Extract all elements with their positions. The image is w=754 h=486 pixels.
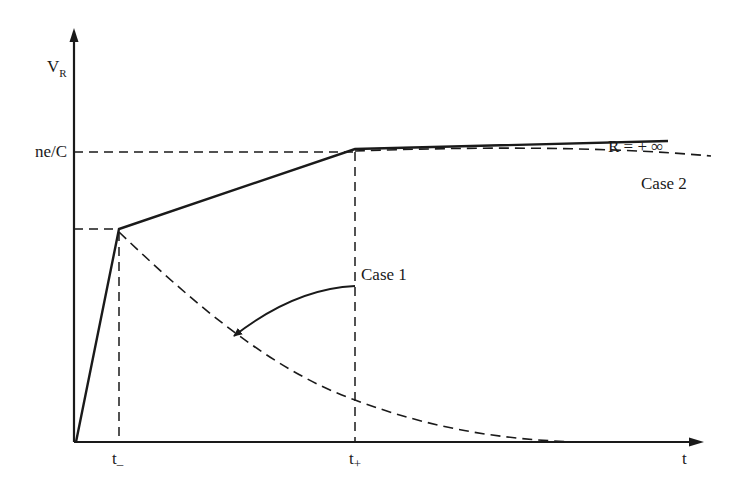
t-minus-sub: – (117, 456, 124, 471)
y-axis-label-sub: R (59, 67, 66, 79)
voltage-time-diagram: VR ne/C R = + ∞ Case 2 Case 1 t– t+ t (0, 0, 754, 486)
case-1-arrow-icon (234, 286, 355, 336)
curve-r-infinity (76, 141, 668, 442)
case-1-label: Case 1 (361, 266, 407, 283)
y-axis-label: VR (47, 58, 67, 75)
r-infinity-label: R = + ∞ (608, 138, 663, 155)
case-2-label: Case 2 (641, 175, 687, 192)
y-axis-arrow-icon (70, 28, 79, 42)
curve-case-1 (119, 232, 580, 442)
x-axis-arrow-icon (689, 438, 704, 447)
y-axis (70, 28, 79, 442)
t-plus-label: t+ (349, 450, 361, 467)
diagram-canvas (0, 0, 754, 486)
y-axis-label-main: V (47, 57, 59, 76)
t-plus-sub: + (354, 456, 361, 471)
t-minus-label: t– (112, 450, 123, 467)
x-axis-label: t (682, 450, 687, 467)
ne-over-c-label: ne/C (35, 143, 67, 160)
x-axis (74, 438, 704, 447)
